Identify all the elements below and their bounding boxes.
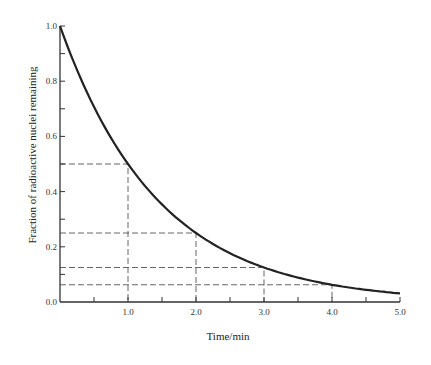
x-axis-ticks: 1.02.03.04.05.0 (94, 297, 406, 317)
x-tick-label: 4.0 (326, 307, 338, 317)
x-tick-label: 5.0 (394, 307, 406, 317)
y-tick-label: 0.2 (46, 242, 57, 252)
y-tick-label: 0.6 (46, 131, 58, 141)
x-tick-label: 1.0 (122, 307, 134, 317)
y-tick-label: 0.4 (46, 187, 58, 197)
y-axis-ticks: 0.00.20.40.60.81.0 (46, 21, 65, 307)
decay-curve (60, 26, 400, 293)
decay-chart: 0.00.20.40.60.81.0 1.02.03.04.05.0 Time/… (0, 0, 431, 365)
y-tick-label: 1.0 (46, 21, 58, 31)
y-axis-title: Fraction of radioactive nuclei remaining (26, 66, 38, 244)
y-tick-label: 0.0 (46, 297, 58, 307)
x-tick-label: 2.0 (190, 307, 202, 317)
x-axis-title: Time/min (207, 330, 250, 342)
x-tick-label: 3.0 (258, 307, 270, 317)
y-tick-label: 0.8 (46, 76, 58, 86)
